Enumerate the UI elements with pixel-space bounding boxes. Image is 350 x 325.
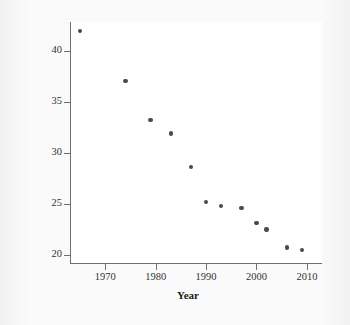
y-tick-label: 25 (34, 198, 62, 209)
y-tick-label: 35 (34, 96, 62, 107)
x-tick-mark (156, 264, 157, 270)
x-tick-label: 1980 (136, 272, 176, 283)
x-tick-label: 2000 (236, 272, 276, 283)
y-axis-line (70, 22, 71, 263)
data-point (264, 227, 268, 231)
x-axis-line (70, 263, 322, 264)
x-tick-label: 2010 (287, 272, 327, 283)
x-tick-mark (105, 264, 106, 270)
x-tick-mark (307, 264, 308, 270)
data-point (169, 131, 173, 135)
y-tick-mark (64, 153, 70, 154)
plot-area (70, 22, 322, 263)
y-tick-mark (64, 255, 70, 256)
y-tick-label: 30 (34, 147, 62, 158)
x-tick-label: 1990 (186, 272, 226, 283)
y-tick-mark (64, 204, 70, 205)
data-point (300, 248, 304, 252)
y-tick-mark (64, 102, 70, 103)
x-tick-label: 1970 (85, 272, 125, 283)
data-point (254, 221, 258, 225)
x-tick-mark (256, 264, 257, 270)
data-point (285, 245, 289, 249)
y-tick-mark (64, 51, 70, 52)
scatter-chart-figure: 2025303540 19701980199020002010 Year Per… (0, 0, 350, 325)
x-axis-title: Year (0, 289, 350, 301)
y-tick-label: 40 (34, 45, 62, 56)
x-tick-mark (206, 264, 207, 270)
data-point (239, 206, 243, 210)
y-tick-label: 20 (34, 249, 62, 260)
data-point (148, 118, 152, 122)
